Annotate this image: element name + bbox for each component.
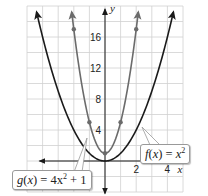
- parabola-graph: xy24481216: [0, 0, 208, 196]
- g-function-label: g(x) = 4x2 + 1: [12, 170, 92, 190]
- g-point: [103, 151, 107, 155]
- f-function-label: f(x) = x2: [140, 144, 190, 164]
- g-point: [134, 27, 138, 31]
- x-tick-label: 4: [165, 164, 171, 175]
- y-tick-label: 16: [90, 32, 102, 43]
- y-axis-label: y: [109, 2, 115, 14]
- g-point: [72, 27, 76, 31]
- g-point: [87, 120, 91, 124]
- y-tick-label: 12: [90, 63, 102, 74]
- x-axis-label: x: [177, 163, 183, 175]
- y-tick-label: 8: [95, 94, 101, 105]
- x-tick-label: 2: [133, 164, 139, 175]
- g-point: [118, 120, 122, 124]
- y-tick-label: 4: [95, 125, 101, 136]
